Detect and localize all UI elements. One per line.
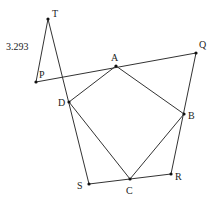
point-label-c: C <box>126 185 133 196</box>
segment-bc <box>130 114 184 179</box>
point-label-a: A <box>111 52 119 63</box>
point-label-q: Q <box>199 39 207 50</box>
labels-group: TPAQDBSCR <box>39 8 207 196</box>
point-label-d: D <box>58 97 65 108</box>
point-d <box>67 100 70 103</box>
point-r <box>169 172 172 175</box>
segment-ab <box>116 66 184 114</box>
point-label-t: T <box>52 8 58 19</box>
geometry-diagram: TPAQDBSCR 3.293 <box>0 0 216 199</box>
point-a <box>114 64 117 67</box>
point-b <box>182 112 185 115</box>
point-q <box>194 51 197 54</box>
point-label-p: P <box>39 69 45 80</box>
point-s <box>87 182 90 185</box>
point-c <box>128 177 131 180</box>
point-label-s: S <box>77 180 83 191</box>
point-p <box>34 80 37 83</box>
point-t <box>46 17 49 20</box>
point-label-b: B <box>188 110 195 121</box>
point-label-r: R <box>175 171 182 182</box>
measurement-label-tp: 3.293 <box>6 41 29 52</box>
